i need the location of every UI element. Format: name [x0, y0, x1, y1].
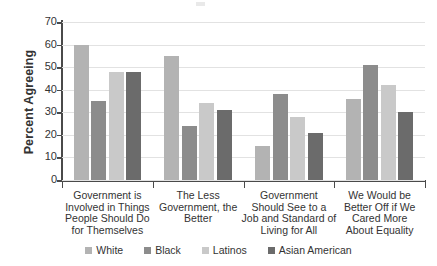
legend-label: Black — [155, 245, 181, 256]
category-label-2: The LessGovernment, theBetter — [152, 190, 244, 225]
legend-swatch-icon — [202, 247, 209, 254]
category-label-line: Living for All — [236, 225, 342, 237]
y-axis-tick — [57, 90, 62, 92]
legend-item-latinos[interactable]: Latinos — [202, 245, 247, 256]
y-axis-tick — [57, 135, 62, 137]
y-axis-tick-label: 70 — [31, 16, 57, 27]
legend-label: White — [96, 245, 123, 256]
legend-swatch-icon — [268, 247, 275, 254]
group-separator-tick — [153, 181, 154, 188]
bar-asian-american — [126, 72, 141, 180]
bar-white — [164, 56, 179, 180]
group-separator-tick — [334, 181, 335, 188]
bar-asian-american — [308, 133, 323, 180]
group-separator-tick — [244, 181, 245, 188]
category-label-line: About Equality — [332, 225, 428, 237]
category-label-4: We Would beBetter Off if WeCared MoreAbo… — [332, 190, 428, 236]
category-label-line: Government — [236, 190, 342, 202]
bar-asian-american — [217, 110, 232, 180]
y-axis-tick — [57, 112, 62, 114]
y-axis-tick-label: 50 — [31, 61, 57, 72]
legend-swatch-icon — [85, 247, 92, 254]
bar-white — [74, 45, 89, 180]
y-axis-tick-label: 20 — [31, 129, 57, 140]
bar-black — [363, 65, 378, 180]
bar-black — [182, 126, 197, 180]
top-artifact — [196, 2, 205, 6]
category-label-3: GovernmentShould See to aJob and Standar… — [236, 190, 342, 236]
bar-chart: Percent Agreeing 706050403020100 Governm… — [0, 0, 437, 266]
category-label-1: Government isInvolved in ThingsPeople Sh… — [54, 190, 160, 236]
bar-black — [91, 101, 106, 180]
y-axis-tick — [57, 45, 62, 47]
category-label-line: for Themselves — [54, 225, 160, 237]
gridline — [62, 22, 425, 23]
category-label-line: Government is — [54, 190, 160, 202]
y-axis-tick-label: 0 — [31, 174, 57, 185]
y-axis-tick — [57, 157, 62, 159]
legend-swatch-icon — [144, 247, 151, 254]
plot-area: 706050403020100 — [62, 22, 425, 180]
bar-asian-american — [398, 112, 413, 180]
category-label-line: Better — [152, 213, 244, 225]
y-axis-tick-label: 30 — [31, 106, 57, 117]
legend-label: Asian American — [279, 245, 352, 256]
category-label-line: The Less — [152, 190, 244, 202]
legend-item-white[interactable]: White — [85, 245, 123, 256]
y-axis-tick-label: 10 — [31, 151, 57, 162]
group-separator-tick — [425, 181, 426, 188]
y-axis-tick-label: 60 — [31, 39, 57, 50]
bar-latinos — [199, 103, 214, 180]
legend-item-black[interactable]: Black — [144, 245, 181, 256]
legend-label: Latinos — [213, 245, 247, 256]
y-axis-tick-label: 40 — [31, 84, 57, 95]
chart-legend: WhiteBlackLatinosAsian American — [0, 245, 437, 256]
gridline — [62, 45, 425, 46]
category-label-line: We Would be — [332, 190, 428, 202]
y-axis-tick — [57, 22, 62, 24]
bar-white — [346, 99, 361, 180]
bar-latinos — [290, 117, 305, 180]
y-axis-tick — [57, 67, 62, 69]
bar-white — [255, 146, 270, 180]
bar-latinos — [109, 72, 124, 180]
bar-black — [273, 94, 288, 180]
bar-latinos — [381, 85, 396, 180]
legend-item-asian-american[interactable]: Asian American — [268, 245, 352, 256]
group-separator-tick — [62, 181, 63, 188]
